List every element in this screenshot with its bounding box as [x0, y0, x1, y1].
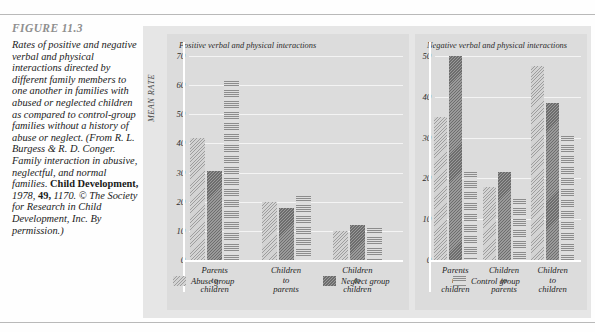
legend-label: Control group [471, 276, 520, 286]
bar [449, 56, 462, 260]
caption-part-2: 1978, [12, 190, 38, 201]
bar [531, 66, 544, 260]
y-axis-tick-label: 60 [163, 80, 185, 90]
bar [350, 225, 365, 260]
figure-caption: FIGURE 11.3 Rates of positive and negati… [12, 22, 140, 236]
bar [546, 103, 559, 260]
bar [513, 199, 526, 260]
bar [207, 171, 222, 260]
bar [279, 208, 294, 260]
caption-journal: Child Development, [50, 178, 138, 189]
y-axis-tick-label: 0 [163, 255, 185, 265]
gridline [189, 85, 403, 86]
bar [498, 172, 511, 260]
plot-area-negative: 01020304050 [435, 56, 581, 260]
legend-swatch [173, 276, 186, 286]
y-axis-tick-label: 20 [163, 197, 185, 207]
bar [434, 117, 447, 260]
chart-plate: MEAN RATE Positive verbal and physical i… [143, 26, 591, 318]
top-rule [0, 14, 595, 15]
y-axis-tick-label: 40 [163, 138, 185, 148]
legend-swatch [453, 276, 466, 286]
y-axis-tick-label: 50 [409, 51, 431, 61]
plot-area-positive: 010203040506070 [189, 56, 403, 260]
y-axis-tick-label: 10 [163, 226, 185, 236]
x-axis-line [183, 260, 403, 262]
bar [296, 196, 311, 260]
bar [190, 138, 205, 260]
legend-item: Neglect group [323, 276, 390, 286]
y-axis-line [183, 42, 185, 292]
chart-panel-negative: Negative verbal and physical interaction… [415, 34, 587, 310]
figure-label: FIGURE 11.3 [12, 22, 140, 34]
y-axis-title: MEAN RATE [147, 74, 156, 122]
y-axis-tick-label: 30 [409, 133, 431, 143]
legend-item: Control group [453, 276, 520, 286]
legend-swatch [323, 276, 336, 286]
y-axis-tick-label: 40 [409, 92, 431, 102]
legend-label: Neglect group [341, 276, 390, 286]
chart-panel-positive: Positive verbal and physical interaction… [167, 34, 409, 310]
bar [367, 228, 382, 260]
y-axis-line [429, 42, 431, 292]
caption-volume: 49, [38, 190, 51, 201]
figure-plate: FIGURE 11.3 Rates of positive and negati… [0, 0, 595, 332]
y-axis-tick-label: 10 [409, 214, 431, 224]
gridline [189, 114, 403, 115]
y-axis-tick-label: 50 [163, 109, 185, 119]
bar [224, 81, 239, 260]
gridline [189, 143, 403, 144]
bar [262, 202, 277, 260]
y-axis-tick-label: 20 [409, 173, 431, 183]
bar [561, 136, 574, 260]
panel-title-negative: Negative verbal and physical interaction… [427, 41, 567, 50]
x-axis-line [429, 260, 581, 262]
bar [483, 187, 496, 260]
bar [333, 231, 348, 260]
bar [464, 172, 477, 260]
caption-text: Rates of positive and negative verbal an… [12, 39, 140, 236]
y-axis-tick-label: 70 [163, 51, 185, 61]
y-axis-tick-label: 30 [163, 168, 185, 178]
gridline [189, 56, 403, 57]
panel-title-positive: Positive verbal and physical interaction… [179, 41, 316, 50]
caption-part-1: Rates of positive and negative verbal an… [12, 39, 137, 189]
bottom-rule [0, 322, 595, 323]
legend-item: Abuse group [173, 276, 234, 286]
legend-label: Abuse group [191, 276, 234, 286]
y-axis-tick-label: 0 [409, 255, 431, 265]
chart-legend: Abuse groupNeglect groupControl group [173, 276, 573, 296]
